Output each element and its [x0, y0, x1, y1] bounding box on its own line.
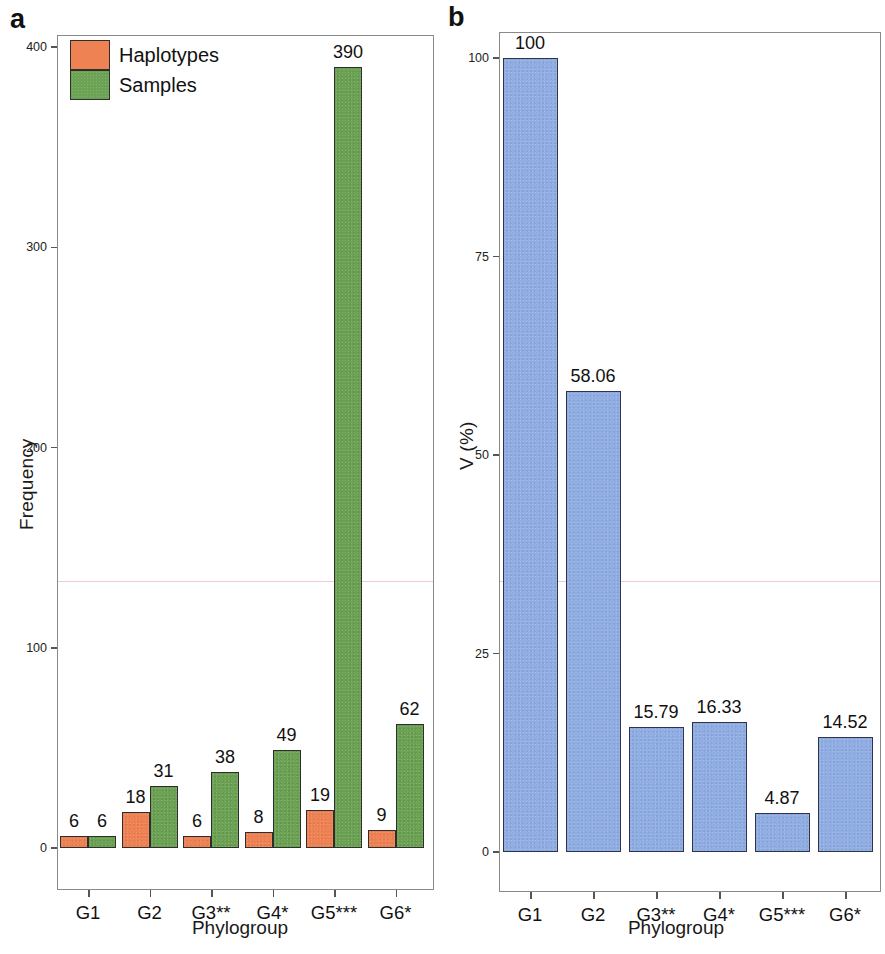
x-tick-mark — [150, 890, 152, 897]
y-tick-mark — [51, 647, 57, 649]
bar-G3ss-haplotypes[interactable] — [183, 836, 211, 848]
bar-G4s-samples[interactable] — [273, 750, 301, 848]
y-tick-label: 100 — [26, 640, 51, 654]
panel-a: a Frequency Phylogroup Haplotypes Sample… — [0, 0, 440, 954]
y-tick-mark — [51, 46, 57, 48]
y-tick-label: 400 — [26, 40, 51, 54]
x-tick-label-G5sss: G5*** — [759, 904, 805, 926]
y-tick-mark — [51, 247, 57, 249]
y-tick-label: 75 — [475, 249, 493, 263]
y-tick-mark — [493, 256, 499, 258]
y-tick-label: 200 — [26, 440, 51, 454]
x-tick-label-G5sss: G5*** — [311, 902, 357, 924]
x-tick-label-G2: G2 — [137, 902, 162, 924]
y-tick-label: 0 — [40, 841, 51, 855]
x-tick-mark — [656, 892, 658, 899]
y-tick-mark — [51, 847, 57, 849]
bar-G2-v (%)[interactable] — [566, 391, 621, 852]
x-tick-label-G4s: G4* — [257, 902, 289, 924]
y-tick-label: 50 — [475, 448, 493, 462]
x-tick-mark — [211, 890, 213, 897]
x-tick-mark — [334, 890, 336, 897]
y-tick-label: 0 — [482, 845, 493, 859]
y-tick-mark — [493, 57, 499, 59]
x-tick-mark — [593, 892, 595, 899]
x-tick-label-G1: G1 — [518, 904, 543, 926]
y-tick-mark — [493, 653, 499, 655]
x-tick-mark — [396, 890, 398, 897]
x-tick-mark — [845, 892, 847, 899]
bar-G2-haplotypes[interactable] — [122, 812, 150, 848]
bar-G6s-v (%)[interactable] — [818, 737, 873, 852]
x-tick-label-G3ss: G3** — [636, 904, 675, 926]
x-tick-label-G1: G1 — [76, 902, 101, 924]
legend-swatch-haplotypes-icon — [70, 40, 110, 70]
x-tick-label-G4s: G4* — [703, 904, 735, 926]
panel-b: b V (%) Phylogroup 0255075100 G1G2G3**G4… — [440, 0, 876, 954]
x-tick-label-G6s: G6* — [380, 902, 412, 924]
legend-item-samples: Samples — [70, 70, 219, 100]
bar-G5sss-haplotypes[interactable] — [306, 810, 334, 848]
bar-G3ss-samples[interactable] — [211, 772, 239, 848]
legend-label-samples: Samples — [119, 74, 197, 97]
legend-swatch-samples-icon — [70, 70, 110, 100]
x-tick-mark — [88, 890, 90, 897]
x-tick-mark — [273, 890, 275, 897]
panel-b-letter: b — [448, 4, 465, 31]
bar-G1-samples[interactable] — [88, 836, 116, 848]
scan-artifact — [58, 581, 433, 582]
y-tick-label: 300 — [26, 240, 51, 254]
panel-a-legend: Haplotypes Samples — [70, 40, 219, 100]
x-tick-mark — [782, 892, 784, 899]
bar-G1-haplotypes[interactable] — [60, 836, 88, 848]
x-tick-label-G3ss: G3** — [191, 902, 230, 924]
bar-G5sss-v (%)[interactable] — [755, 813, 810, 852]
bar-G5sss-samples[interactable] — [334, 67, 362, 848]
y-tick-mark — [493, 851, 499, 853]
y-tick-label: 25 — [475, 646, 493, 660]
bar-G6s-samples[interactable] — [396, 724, 424, 848]
legend-label-haplotypes: Haplotypes — [119, 44, 219, 67]
bar-G1-v (%)[interactable] — [503, 58, 558, 852]
x-tick-mark — [530, 892, 532, 899]
bar-G6s-haplotypes[interactable] — [368, 830, 396, 848]
panel-a-plot-area: Haplotypes Samples — [57, 35, 434, 890]
bar-G4s-haplotypes[interactable] — [245, 832, 273, 848]
y-tick-mark — [51, 447, 57, 449]
panel-a-letter: a — [10, 6, 25, 33]
x-tick-label-G6s: G6* — [829, 904, 861, 926]
bar-G2-samples[interactable] — [150, 786, 178, 848]
y-tick-mark — [493, 454, 499, 456]
legend-item-haplotypes: Haplotypes — [70, 40, 219, 70]
x-tick-label-G2: G2 — [581, 904, 606, 926]
panel-b-y-axis-title: V (%) — [456, 422, 478, 471]
y-tick-label: 100 — [468, 51, 493, 65]
bar-G4s-v (%)[interactable] — [692, 722, 747, 852]
bar-G3ss-v (%)[interactable] — [629, 727, 684, 852]
x-tick-mark — [719, 892, 721, 899]
